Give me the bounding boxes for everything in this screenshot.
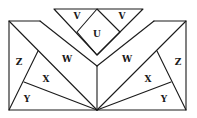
label-w-left: W xyxy=(61,54,73,64)
label-z-left: Z xyxy=(16,57,23,67)
label-w-right: W xyxy=(121,54,133,64)
label-x-right: X xyxy=(145,74,152,84)
right-diagonal xyxy=(97,21,186,110)
left-xy-divider xyxy=(24,82,97,110)
label-v-right: V xyxy=(118,11,127,21)
label-x-left: X xyxy=(43,74,50,84)
label-u: U xyxy=(93,29,101,39)
label-y-left: Y xyxy=(23,94,31,104)
label-y-right: Y xyxy=(160,94,168,104)
label-z-right: Z xyxy=(175,57,182,67)
dissection-diagram: V V U W W Z Z X X Y Y xyxy=(0,0,197,118)
label-v-left: V xyxy=(73,11,82,21)
